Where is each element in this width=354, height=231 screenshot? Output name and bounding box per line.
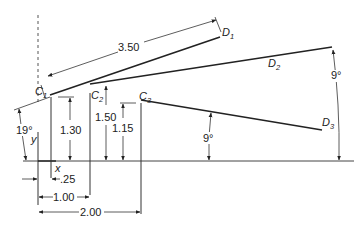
angle-9-c3-label: 9° [203, 132, 214, 144]
dim-1-15-label: 1.15 [112, 122, 133, 134]
dim-0-25-label: .25 [60, 173, 75, 185]
label-c1: C1 [35, 85, 47, 100]
label-c2: C2 [91, 89, 104, 104]
dim-1-00-label: 1.00 [53, 191, 74, 203]
dim-1-30-label: 1.30 [60, 124, 81, 136]
dim-3-50-line-b [144, 20, 216, 42]
angle-19-ext [14, 97, 50, 110]
dimension-diagram: y x 3.50 C1 C2 C3 D1 D2 D3 19° 1.30 1.50… [0, 0, 354, 231]
line-c3-d3 [141, 100, 322, 130]
angle-9-c2-label: 9° [331, 69, 342, 81]
angle-19-label: 19° [16, 124, 33, 136]
label-d2: D2 [268, 57, 281, 72]
dim-2-00-label: 2.00 [80, 206, 101, 218]
label-c3: C3 [139, 90, 152, 105]
angle-9-c2-arc [333, 50, 339, 160]
label-d3: D3 [322, 116, 335, 131]
dim-3-50-ext-end [215, 17, 221, 32]
dim-3-50-line-a [48, 52, 118, 76]
dim-3-50-label: 3.50 [118, 41, 139, 53]
label-d1: D1 [222, 26, 234, 41]
